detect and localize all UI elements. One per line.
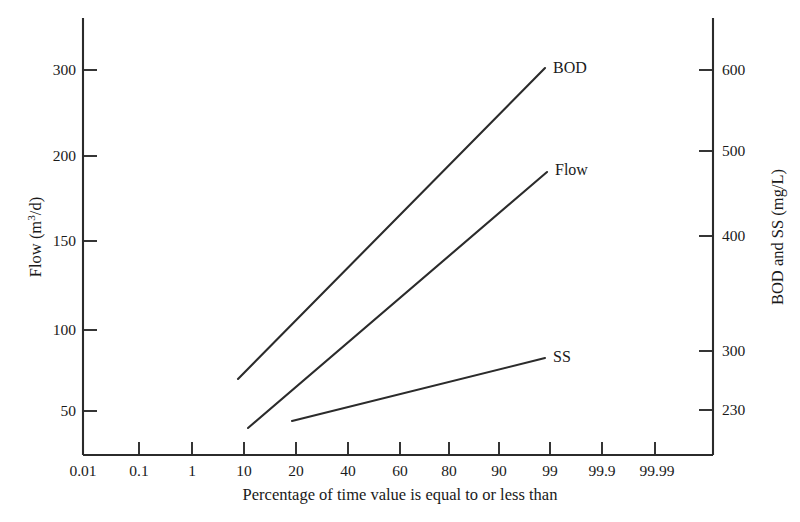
data-series: [238, 68, 547, 428]
series-label-flow: Flow: [555, 162, 588, 178]
axis-frame: [83, 18, 713, 455]
x-tick-label-90: 90: [491, 463, 507, 479]
y-tick-label-left-200: 200: [53, 148, 76, 164]
x-tick-label-99: 99: [542, 463, 558, 479]
x-tick-label-20: 20: [288, 463, 304, 479]
y-axis-ticks-right: [699, 70, 713, 410]
x-tick-label-99.99: 99.99: [640, 463, 675, 479]
y-tick-label-left-300: 300: [53, 62, 76, 78]
x-axis-ticks: [83, 442, 655, 455]
y-tick-label-right-400: 400: [722, 228, 745, 244]
x-tick-label-1: 1: [188, 463, 196, 479]
x-tick-label-99.9: 99.9: [588, 463, 615, 479]
y-tick-label-right-600: 600: [722, 62, 745, 78]
plot-canvas: [0, 0, 800, 522]
x-tick-label-80: 80: [441, 463, 457, 479]
x-tick-label-60: 60: [392, 463, 408, 479]
series-line-bod: [238, 68, 545, 379]
y-tick-label-left-50: 50: [61, 403, 77, 419]
probability-plot-figure: 0.01 0.1 1 10 20 40 60 80 90 99 99.9 99.…: [0, 0, 800, 522]
y-tick-label-left-150: 150: [53, 233, 76, 249]
y-axis-title-left: Flow (m3/d): [28, 197, 45, 277]
series-label-ss: SS: [553, 349, 571, 365]
y-tick-label-right-500: 500: [722, 143, 745, 159]
x-axis-title: Percentage of time value is equal to or …: [243, 487, 558, 504]
x-tick-label-10: 10: [236, 463, 252, 479]
y-tick-label-left-100: 100: [53, 322, 76, 338]
y-tick-label-right-230: 230: [722, 402, 745, 418]
series-line-ss: [292, 358, 545, 421]
series-line-flow: [248, 172, 547, 428]
series-label-bod: BOD: [553, 60, 587, 76]
y-axis-title-left-suffix: /d): [26, 197, 45, 215]
y-axis-title-left-prefix: Flow (m: [26, 221, 45, 277]
y-axis-title-left-superscript: 3: [25, 215, 37, 221]
x-tick-label-0.01: 0.01: [69, 463, 96, 479]
y-axis-title-right: BOD and SS (mg/L): [770, 169, 787, 305]
y-tick-label-right-300: 300: [722, 343, 745, 359]
x-tick-label-40: 40: [340, 463, 356, 479]
x-tick-label-0.1: 0.1: [129, 463, 148, 479]
y-axis-ticks-left: [83, 70, 97, 411]
